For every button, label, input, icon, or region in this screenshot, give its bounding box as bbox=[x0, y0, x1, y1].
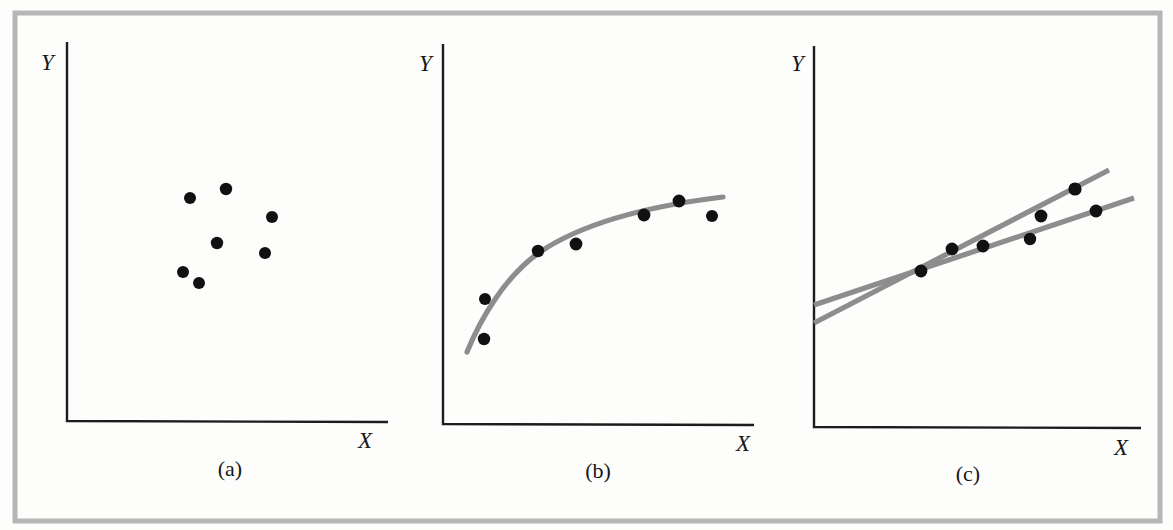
data-point bbox=[532, 245, 544, 257]
scatterplot-figure: Y X (a) Y X bbox=[0, 0, 1173, 530]
data-point bbox=[946, 243, 959, 256]
panel-a-caption: (a) bbox=[218, 456, 242, 481]
panel-a-y-axis-label: Y bbox=[41, 50, 56, 75]
panel-c-x-axis-label: X bbox=[1113, 435, 1129, 460]
panel-c-y-axis-label: Y bbox=[791, 51, 806, 76]
data-point bbox=[478, 333, 490, 345]
data-point bbox=[1035, 210, 1048, 223]
panel-a-x-axis-label: X bbox=[357, 428, 373, 453]
data-point bbox=[1024, 233, 1036, 245]
data-point bbox=[259, 247, 271, 259]
data-point bbox=[266, 211, 278, 223]
data-point bbox=[977, 240, 990, 253]
data-point bbox=[706, 210, 718, 222]
panel-b-x-axis-label: X bbox=[735, 431, 751, 456]
data-point bbox=[193, 277, 205, 289]
data-point bbox=[570, 238, 583, 251]
data-point bbox=[184, 192, 196, 204]
data-point bbox=[220, 183, 232, 195]
panel-b-y-axis-label: Y bbox=[419, 51, 434, 76]
data-point bbox=[638, 209, 651, 222]
figure-container: Y X (a) Y X bbox=[0, 0, 1173, 530]
data-point bbox=[479, 293, 491, 305]
data-point bbox=[177, 266, 189, 278]
panel-c-caption: (c) bbox=[956, 461, 980, 486]
data-point bbox=[915, 265, 928, 278]
data-point bbox=[1068, 182, 1081, 195]
figure-background bbox=[0, 0, 1173, 530]
data-point bbox=[1090, 205, 1103, 218]
panel-b-caption: (b) bbox=[585, 458, 611, 483]
data-point bbox=[673, 195, 686, 208]
data-point bbox=[211, 237, 223, 249]
